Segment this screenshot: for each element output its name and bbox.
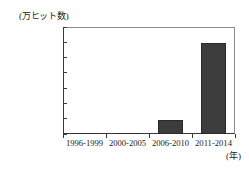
bar-chart: (万ヒット数) 0500100015002000250030003500 199… [0, 0, 249, 170]
x-axis-tick-label: 2011-2014 [186, 138, 241, 148]
bar [158, 120, 184, 134]
x-axis-unit-label: (年) [226, 151, 241, 161]
bar-series [64, 28, 234, 134]
bar [201, 43, 227, 134]
bar [115, 133, 141, 135]
y-axis-unit-label: (万ヒット数) [19, 11, 69, 22]
bar [72, 133, 98, 135]
